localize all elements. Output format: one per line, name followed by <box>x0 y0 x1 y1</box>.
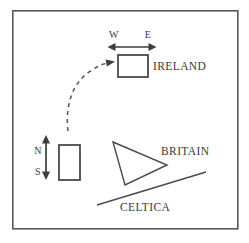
origin-rectangle <box>59 145 80 180</box>
label-ireland: IRELAND <box>153 60 206 72</box>
label-north: N <box>34 145 42 156</box>
arrowhead-east <box>149 43 157 51</box>
label-celtica: CELTICA <box>120 201 171 213</box>
arrowhead-migration <box>106 60 116 67</box>
map-diagram: W E IRELAND N S BRITAIN CELTICA <box>0 0 249 243</box>
figure-canvas: W E IRELAND N S BRITAIN CELTICA <box>0 0 249 243</box>
arrowhead-west <box>108 43 116 51</box>
ireland-rectangle <box>118 55 148 77</box>
west-east-axis-arrow <box>108 43 157 51</box>
north-south-axis-arrow <box>42 135 50 180</box>
label-east: E <box>145 29 152 40</box>
label-britain: BRITAIN <box>161 145 210 157</box>
label-west: W <box>109 29 119 40</box>
arrowhead-south <box>42 172 50 181</box>
label-south: S <box>35 166 41 177</box>
migration-path-arrow <box>67 60 115 132</box>
arrowhead-north <box>42 135 50 144</box>
britain-triangle <box>113 142 167 185</box>
